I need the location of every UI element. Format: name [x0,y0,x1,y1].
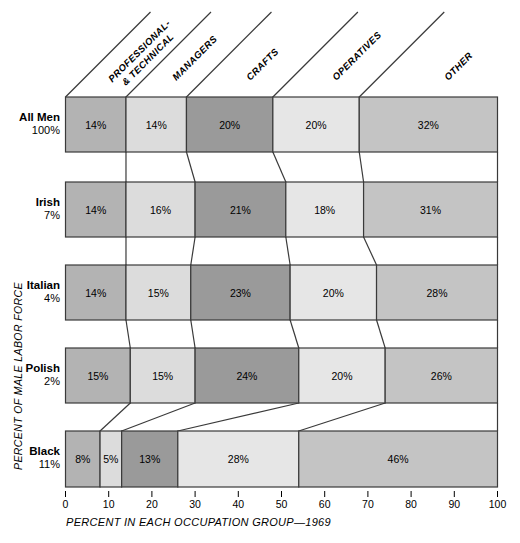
x-axis-tick-label: 40 [232,498,244,510]
x-axis-tick-label: 100 [489,498,507,510]
x-axis-ticks [0,0,520,543]
x-axis-tick-label: 0 [63,498,69,510]
x-axis-tick-label: 10 [103,498,115,510]
x-axis-tick-label: 30 [189,498,201,510]
x-axis-tick-label: 50 [276,498,288,510]
x-axis-tick-label: 60 [319,498,331,510]
x-axis-tick-label: 70 [362,498,374,510]
y-axis-caption: PERCENT OF MALE LABOR FORCE [12,282,24,470]
x-axis-tick-label: 80 [405,498,417,510]
occupation-distribution-chart: PROFESSIONAL-& TECHNICALMANAGERSCRAFTSOP… [0,0,520,543]
x-axis-tick-label: 20 [146,498,158,510]
x-axis-tick-label: 90 [448,498,460,510]
x-axis-caption: PERCENT IN EACH OCCUPATION GROUP—1969 [66,516,331,528]
